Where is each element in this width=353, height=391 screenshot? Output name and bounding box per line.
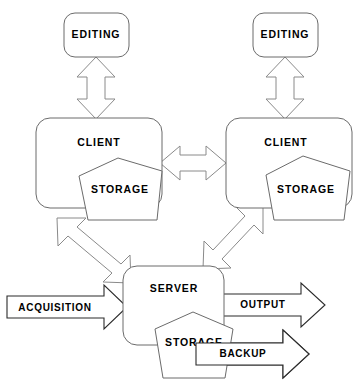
editing-right-label: EDITING bbox=[261, 28, 310, 40]
server-label: SERVER bbox=[150, 282, 198, 294]
connector-client-left-to-server bbox=[57, 218, 131, 283]
flow-output: OUTPUT bbox=[216, 283, 325, 327]
client-right-label: CLIENT bbox=[264, 136, 307, 148]
client-left-label: CLIENT bbox=[77, 136, 120, 148]
editing-left-label: EDITING bbox=[72, 28, 121, 40]
flow-output-label: OUTPUT bbox=[240, 299, 285, 310]
node-editing-left: EDITING bbox=[64, 13, 129, 57]
storage-client-left-label: STORAGE bbox=[91, 183, 149, 195]
connector-editing-left-to-client-left bbox=[77, 57, 115, 119]
connector-editing-right-to-client-right bbox=[266, 57, 304, 119]
connector-client-left-to-client-right bbox=[160, 146, 226, 180]
node-editing-right: EDITING bbox=[253, 13, 318, 57]
storage-client-right-label: STORAGE bbox=[277, 183, 335, 195]
flow-acquisition-label: ACQUISITION bbox=[18, 302, 91, 313]
diagram-canvas: ACQUISITION OUTPUT BACKUP EDITING EDITIN… bbox=[0, 0, 353, 391]
flow-backup-overlay-label: BACKUP bbox=[220, 348, 267, 359]
architecture-diagram: ACQUISITION OUTPUT BACKUP EDITING EDITIN… bbox=[0, 0, 353, 391]
connector-client-right-to-server bbox=[203, 206, 263, 269]
flow-acquisition: ACQUISITION bbox=[7, 285, 127, 329]
